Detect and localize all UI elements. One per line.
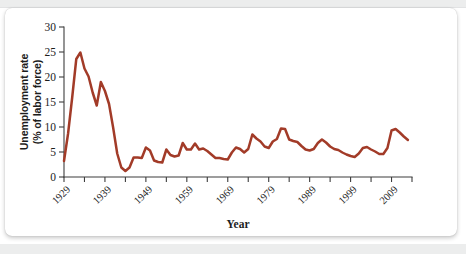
data-line-unemployment-rate xyxy=(64,53,408,172)
y-axis-title-line2: (% of labor force) xyxy=(31,60,43,144)
y-axis-tick-label: 15 xyxy=(45,96,57,108)
x-axis-tick-label: 1949 xyxy=(132,184,155,207)
x-axis-tick-label: 1929 xyxy=(50,184,73,207)
y-axis-title-line1: Unemployment rate xyxy=(18,54,30,151)
x-axis-tick-label: 1959 xyxy=(173,184,196,207)
y-axis-tick-label: 30 xyxy=(45,21,57,33)
x-axis-tick-label: 1969 xyxy=(214,184,237,207)
x-axis-title: Year xyxy=(227,218,250,230)
y-axis-title: Unemployment rate(% of labor force) xyxy=(18,54,43,151)
y-axis-tick-label: 20 xyxy=(45,71,57,83)
y-axis-tick-label: 25 xyxy=(45,46,57,58)
x-axis-tick-label: 1989 xyxy=(295,184,318,207)
x-axis-tick-label: 1999 xyxy=(336,184,359,207)
y-axis: 051015202530 xyxy=(45,21,65,183)
data-series-group xyxy=(64,53,408,172)
y-axis-tick-label: 10 xyxy=(45,121,57,133)
x-axis: 192919391949195919691979198919992009 xyxy=(50,177,412,206)
x-axis-tick-label: 1979 xyxy=(254,184,277,207)
y-axis-title-group: Unemployment rate(% of labor force) xyxy=(18,54,43,151)
chart-plot-area: 051015202530 192919391949195919691979198… xyxy=(0,0,466,254)
figure-root: 051015202530 192919391949195919691979198… xyxy=(0,0,466,254)
unemployment-line-chart: 051015202530 192919391949195919691979198… xyxy=(0,0,466,254)
y-axis-tick-label: 5 xyxy=(50,146,56,158)
x-axis-tick-label: 2009 xyxy=(377,184,400,207)
y-axis-tick-label: 0 xyxy=(50,171,56,183)
x-axis-tick-label: 1939 xyxy=(91,184,114,207)
